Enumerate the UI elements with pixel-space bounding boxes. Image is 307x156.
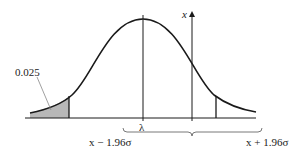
tail-area-label: 0.025 — [15, 66, 40, 78]
arrowhead-icon — [189, 11, 195, 17]
tail-leader-line — [37, 77, 51, 110]
normal-curve-diagram: 0.025 λ x x − 1.96σ x + 1.96σ — [0, 0, 307, 156]
upper-bound-label: x + 1.96σ — [246, 136, 288, 148]
lower-bound-label: x − 1.96σ — [89, 136, 131, 148]
mean-label: λ — [139, 121, 145, 133]
observed-x-label: x — [181, 8, 187, 20]
